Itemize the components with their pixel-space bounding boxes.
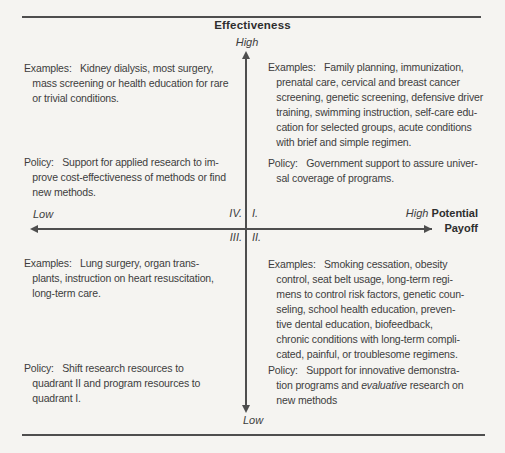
bottom-rule-line xyxy=(22,434,485,436)
arrow-right-icon xyxy=(424,225,432,233)
payoff-high-label: High xyxy=(406,207,429,219)
payoff-high-title: High Potential xyxy=(406,207,478,219)
payoff-title-word1: Potential xyxy=(432,207,478,219)
quadrant-i-examples-text: Examples: Family planning, immunization,… xyxy=(268,60,483,150)
quadrant-ii-examples-text: Examples: Smoking cessation, obesity con… xyxy=(268,257,464,362)
quadrant-iv-policy-text: Policy: Support for applied research to … xyxy=(24,155,226,200)
quadrant-iii-policy-text: Policy: Shift research resources to quad… xyxy=(24,361,200,406)
quadrant-iv-examples-text: Examples: Kidney dialysis, most surgery,… xyxy=(24,61,228,106)
quadrant-ii-policy-text: Policy: Support for innovative demonstra… xyxy=(268,363,464,408)
effectiveness-axis-line xyxy=(245,57,247,408)
quadrant-label-i: I. xyxy=(252,207,258,219)
top-rule-line xyxy=(22,16,481,18)
payoff-low-label: Low xyxy=(33,208,53,220)
arrow-down-icon xyxy=(242,405,250,413)
quadrant-label-iii: III. xyxy=(200,231,242,243)
payoff-axis-line xyxy=(36,228,432,230)
quadrant-ii-policy-italic-word: evaluative xyxy=(361,379,407,391)
arrow-left-icon xyxy=(30,225,38,233)
effectiveness-high-label: High xyxy=(0,36,494,48)
quadrant-i-policy-text: Policy: Government support to assure uni… xyxy=(268,156,478,186)
effectiveness-axis-title: Effectiveness xyxy=(0,19,505,31)
quadrant-diagram-canvas: Effectiveness High IV. I. III. II. Low H… xyxy=(0,0,505,453)
quadrant-iii-examples-text: Examples: Lung surgery, organ trans- pla… xyxy=(24,256,214,301)
quadrant-label-iv: IV. xyxy=(200,207,242,219)
payoff-title-word2: Payoff xyxy=(444,222,478,234)
quadrant-label-ii: II. xyxy=(252,231,261,243)
arrow-up-icon xyxy=(242,51,250,59)
effectiveness-low-label: Low xyxy=(0,414,505,426)
